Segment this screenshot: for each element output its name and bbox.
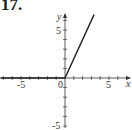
x-tick-label-neg5: -5 <box>17 79 25 90</box>
function-line <box>1 15 94 78</box>
y-axis-arrow-icon <box>63 13 67 18</box>
y-axis-label: y <box>56 11 62 22</box>
function-graph: -5 5 0 5 -5 x y <box>0 0 132 130</box>
y-tick-label-neg5: -5 <box>52 120 60 130</box>
x-tick-label-5: 5 <box>106 79 111 90</box>
x-axis-label: x <box>125 78 131 89</box>
y-tick-label-5: 5 <box>56 25 61 36</box>
origin-label: 0 <box>58 79 63 90</box>
